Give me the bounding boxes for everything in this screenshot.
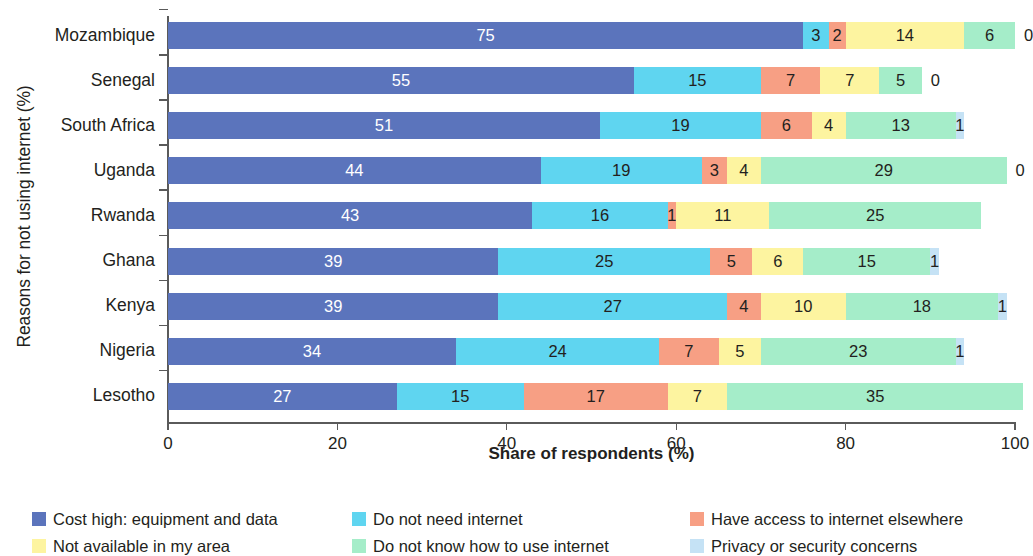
legend-item[interactable]: Not available in my area	[32, 533, 230, 556]
chart-legend: Cost high: equipment and dataDo not need…	[0, 500, 1030, 556]
bar-row: 271517735	[168, 383, 1015, 410]
bar-segment-value-label: 1	[930, 248, 939, 275]
bar-segment-value-label: 4	[739, 293, 748, 320]
y-axis-tick	[159, 144, 168, 145]
x-axis-line	[167, 422, 1016, 424]
y-axis-tick	[159, 9, 168, 10]
bar-segment-value-label: 6	[773, 248, 782, 275]
bar-segment-value-label: 27	[603, 293, 621, 320]
y-axis-tick	[159, 189, 168, 190]
bar-segment-value-label: 51	[375, 112, 393, 139]
bar-segment-value-label: 19	[671, 112, 689, 139]
legend-item[interactable]: Privacy or security concerns	[690, 533, 917, 556]
bar-row: 431611125	[168, 202, 1015, 229]
y-axis-category-label: Lesotho	[0, 385, 155, 406]
bar-segment-value-label: 34	[303, 338, 321, 365]
bar-segment-value-label: 25	[595, 248, 613, 275]
bar-segment-value-label: 0	[1024, 22, 1033, 49]
legend-label: Do not need internet	[373, 511, 523, 528]
bar-segment-value-label: 1	[998, 293, 1007, 320]
bar-segment-value-label: 4	[739, 157, 748, 184]
x-axis-tick	[167, 422, 168, 430]
bar-segment-value-label: 2	[833, 22, 842, 49]
bar-segment-value-label: 3	[811, 22, 820, 49]
bar-segment-value-label: 23	[849, 338, 867, 365]
x-axis-title: Share of respondents (%)	[168, 444, 1015, 464]
bar-segment-value-label: 75	[476, 22, 494, 49]
legend-swatch-icon	[690, 512, 704, 526]
legend-label: Not available in my area	[53, 538, 230, 555]
legend-item[interactable]: Have access to internet elsewhere	[690, 506, 963, 532]
bar-segment-value-label: 19	[612, 157, 630, 184]
y-axis-category-label: Mozambique	[0, 25, 155, 46]
bar-segment-value-label: 7	[786, 67, 795, 94]
bar-segment-value-label: 29	[875, 157, 893, 184]
y-axis-category-label: Senegal	[0, 70, 155, 91]
bar-segment-value-label: 0	[1015, 157, 1024, 184]
bar-segment-value-label: 43	[341, 202, 359, 229]
bar-segment-value-label: 1	[955, 112, 964, 139]
bar-segment-value-label: 55	[392, 67, 410, 94]
bar-segment-value-label: 1	[955, 338, 964, 365]
bar-segment-value-label: 0	[931, 67, 940, 94]
y-axis-category-label: South Africa	[0, 115, 155, 136]
bar-segment-value-label: 15	[688, 67, 706, 94]
bar-segment-value-label: 25	[866, 202, 884, 229]
bar-segment-value-label: 16	[591, 202, 609, 229]
legend-swatch-icon	[32, 539, 46, 553]
bar-row: 441934290	[168, 157, 1015, 184]
y-axis-tick	[159, 280, 168, 281]
bar-segment-value-label: 18	[913, 293, 931, 320]
legend-item[interactable]: Do not need internet	[352, 506, 523, 532]
legend-swatch-icon	[352, 512, 366, 526]
bar-row: 392556151	[168, 248, 1015, 275]
bar-segment-value-label: 15	[858, 248, 876, 275]
legend-label: Do not know how to use internet	[373, 538, 609, 555]
y-axis-tick	[159, 99, 168, 100]
legend-swatch-icon	[690, 539, 704, 553]
y-axis-category-label: Kenya	[0, 295, 155, 316]
legend-item[interactable]: Cost high: equipment and data	[32, 506, 278, 532]
bar-segment-value-label: 1	[667, 202, 676, 229]
bar-segment-value-label: 13	[891, 112, 909, 139]
bar-segment-value-label: 5	[735, 338, 744, 365]
bar-row: 342475231	[168, 338, 1015, 365]
bar-row: 75321460	[168, 22, 1015, 49]
legend-label: Have access to internet elsewhere	[711, 511, 963, 528]
x-axis-tick	[845, 422, 846, 430]
x-axis-tick	[676, 422, 677, 430]
bar-segment-value-label: 4	[824, 112, 833, 139]
bar-segment-value-label: 6	[782, 112, 791, 139]
bar-segment-value-label: 3	[710, 157, 719, 184]
bar-segment-value-label: 7	[693, 383, 702, 410]
y-axis-category-label: Nigeria	[0, 340, 155, 361]
y-axis-tick	[159, 370, 168, 371]
y-axis-category-label: Uganda	[0, 160, 155, 181]
legend-label: Cost high: equipment and data	[53, 511, 278, 528]
legend-swatch-icon	[352, 539, 366, 553]
bar-segment-value-label: 5	[727, 248, 736, 275]
bar-segment-value-label: 7	[684, 338, 693, 365]
bar-row: 511964131	[168, 112, 1015, 139]
bar-segment-value-label: 15	[451, 383, 469, 410]
legend-item[interactable]: Do not know how to use internet	[352, 533, 609, 556]
plot-area: 020406080100Mozambique75321460Senegal551…	[168, 16, 1015, 422]
bar-segment-value-label: 39	[324, 248, 342, 275]
bar-segment-value-label: 6	[985, 22, 994, 49]
bar-row: 3927410181	[168, 293, 1015, 320]
legend-swatch-icon	[32, 512, 46, 526]
bar-segment-value-label: 24	[548, 338, 566, 365]
x-axis-tick	[1014, 422, 1015, 430]
bar-segment-value-label: 44	[345, 157, 363, 184]
y-axis-tick	[159, 325, 168, 326]
y-axis-tick	[159, 235, 168, 236]
bar-row: 55157750	[168, 67, 1015, 94]
bar-segment-value-label: 39	[324, 293, 342, 320]
bar-segment-value-label: 11	[714, 202, 731, 229]
bar-segment-value-label: 27	[273, 383, 291, 410]
bar-segment-value-label: 10	[794, 293, 812, 320]
y-axis-category-label: Rwanda	[0, 205, 155, 226]
bar-segment-value-label: 5	[896, 67, 905, 94]
bar-segment-value-label: 14	[896, 22, 914, 49]
